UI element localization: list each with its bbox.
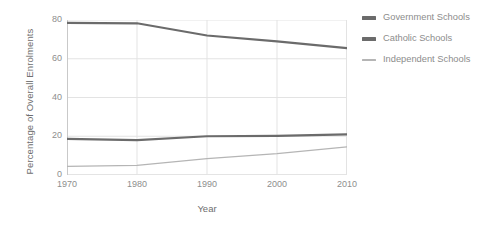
- y-tick-label: 20: [36, 131, 62, 140]
- legend-label: Government Schools: [383, 13, 470, 22]
- legend-item[interactable]: Catholic Schools: [362, 33, 488, 45]
- chart-figure: Percentage of Overall Enrolments 0204060…: [0, 0, 489, 227]
- line-chart-svg: [67, 20, 347, 175]
- y-axis-title: Percentage of Overall Enrolments: [24, 7, 35, 197]
- y-tick-label: 40: [36, 93, 62, 102]
- x-tick-label: 1980: [114, 180, 160, 189]
- legend-swatch-icon: [362, 37, 376, 41]
- chart-legend: Government SchoolsCatholic SchoolsIndepe…: [362, 12, 488, 75]
- legend-item[interactable]: Government Schools: [362, 12, 488, 24]
- legend-swatch-icon: [362, 16, 376, 20]
- x-axis-title: Year: [67, 203, 347, 214]
- legend-label: Independent Schools: [383, 55, 470, 64]
- y-tick-label: 80: [36, 15, 62, 24]
- x-axis-tick-labels: 19701980199020002010: [67, 180, 347, 194]
- x-tick-label: 2010: [324, 180, 370, 189]
- plot-area: [67, 20, 347, 175]
- y-axis-tick-labels: 020406080: [34, 20, 62, 175]
- x-tick-label: 1970: [44, 180, 90, 189]
- x-tick-label: 2000: [254, 180, 300, 189]
- y-tick-label: 0: [36, 170, 62, 179]
- legend-swatch-icon: [362, 59, 376, 61]
- y-tick-label: 60: [36, 54, 62, 63]
- x-tick-label: 1990: [184, 180, 230, 189]
- legend-label: Catholic Schools: [383, 34, 452, 43]
- legend-item[interactable]: Independent Schools: [362, 54, 488, 66]
